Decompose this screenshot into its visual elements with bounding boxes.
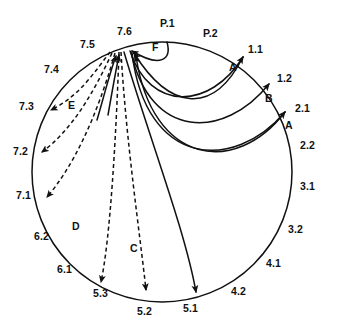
- rim-label-4-2: 4.2: [231, 286, 246, 297]
- arc-label-D: D: [72, 221, 80, 232]
- rim-label-7-4: 7.4: [44, 64, 59, 75]
- rim-label-7-3: 7.3: [19, 101, 34, 112]
- rim-label-4-1: 4.1: [266, 258, 281, 269]
- connection-into-hub-lower: [136, 56, 285, 152]
- diagram-canvas: [0, 0, 339, 335]
- rim-label-7-5: 7.5: [80, 39, 95, 50]
- connection-B: [131, 52, 269, 123]
- rim-label-7-6: 7.6: [117, 26, 132, 37]
- rim-label-P2: P.2: [203, 28, 218, 39]
- arc-label-A-lower: A: [285, 120, 293, 131]
- connection-C-left: [101, 52, 119, 282]
- arc-label-C: C: [130, 243, 138, 254]
- connection-hub-to-5-1: [124, 52, 196, 292]
- rim-label-1-1: 1.1: [248, 44, 263, 55]
- rim-label-5-2: 5.2: [137, 306, 152, 317]
- connection-C-right: [121, 52, 146, 290]
- rim-label-3-1: 3.1: [300, 181, 315, 192]
- rim-label-7-2: 7.2: [13, 146, 28, 157]
- rim-label-3-2: 3.2: [288, 224, 303, 235]
- connection-E-top: [51, 52, 110, 110]
- rim-label-2-2: 2.2: [300, 140, 315, 151]
- rim-label-1-2: 1.2: [277, 73, 292, 84]
- rim-label-5-1: 5.1: [183, 303, 198, 314]
- arc-label-E: E: [68, 100, 75, 111]
- rim-label-P1: P.1: [160, 18, 175, 29]
- rim-label-6-2: 6.2: [34, 231, 49, 242]
- rim-label-2-1: 2.1: [295, 103, 310, 114]
- rim-label-7-1: 7.1: [16, 190, 31, 201]
- rim-label-6-1: 6.1: [57, 264, 72, 275]
- arc-label-F: F: [152, 42, 158, 53]
- circular-connection-diagram: P.1 P.2 1.1 1.2 2.1 2.2 3.1 3.2 4.1 4.2 …: [0, 0, 339, 335]
- rim-label-5-3: 5.3: [93, 288, 108, 299]
- arc-label-A-upper: A: [229, 62, 237, 73]
- arc-label-B: B: [265, 93, 273, 104]
